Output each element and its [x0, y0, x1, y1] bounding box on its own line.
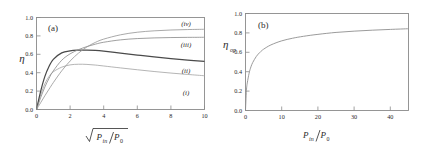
- curve-label-iv: (iv): [181, 20, 191, 28]
- panel-b: 0.0 0.2 0.4 0.6 0.8 1.0 0 10 20 30: [215, 0, 440, 153]
- panel-a: 0.0 0.2 0.4 0.6 0.8 1.0 0 2 4 6: [0, 0, 220, 153]
- panel-a-x-tick-labels: 0 2 4 6 8 10: [35, 112, 208, 119]
- panel-b-curves: [246, 29, 409, 111]
- panel-a-ytick-5: 1.0: [25, 14, 33, 21]
- panel-b-xtick-4: 40: [387, 113, 393, 120]
- panel-b-tag: (b): [258, 20, 269, 30]
- panel-a-xtick-3: 6: [136, 112, 139, 119]
- panel-b-xtick-2b: 20: [315, 113, 321, 120]
- panel-b-xtick-0: 0: [244, 113, 247, 120]
- panel-a-xtick-0: 0: [35, 112, 38, 119]
- panel-a-y-axis-title: η: [19, 52, 24, 64]
- panel-b-ylabel-sub: op: [230, 47, 236, 53]
- panel-a-curves: [37, 29, 205, 109]
- curve-iv: [37, 29, 205, 109]
- panel-b-xlabel-denominator: P: [320, 130, 327, 140]
- panel-a-ytick-2: 0.4: [25, 69, 33, 76]
- curve-label-i: (i): [183, 89, 190, 97]
- panel-b-svg: 0.0 0.2 0.4 0.6 0.8 1.0 0 10 20 30: [215, 0, 440, 153]
- panel-a-xtick-5: 10: [201, 112, 207, 119]
- panel-a-x-axis-title: P in P 0: [86, 129, 128, 144]
- panel-b-ytick-2: 0.4: [234, 68, 242, 75]
- panel-a-xlabel-denominator-sub: 0: [120, 138, 123, 144]
- panel-a-ytick-0: 0.0: [25, 106, 33, 113]
- panel-b-x-ticks: [246, 107, 391, 111]
- panel-b-y-axis-title: η op: [223, 38, 236, 53]
- panel-a-xtick-2: 4: [102, 112, 105, 119]
- panel-b-ytick-5: 1.0: [234, 10, 242, 17]
- panel-a-svg: 0.0 0.2 0.4 0.6 0.8 1.0 0 2 4 6: [0, 0, 220, 153]
- figure-container: 0.0 0.2 0.4 0.6 0.8 1.0 0 2 4 6: [0, 0, 440, 153]
- panel-a-tag: (a): [48, 23, 58, 33]
- panel-b-xtick-1: 10: [279, 113, 285, 120]
- panel-b-xlabel-numerator: P: [302, 130, 309, 140]
- panel-b-xlabel-numerator-sub: in: [309, 136, 314, 142]
- panel-b-x-tick-labels: 0 10 20 30 40: [244, 113, 393, 120]
- curve-label-ii: (ii): [182, 67, 191, 75]
- panel-a-ytick-1: 0.2: [25, 87, 33, 94]
- panel-a-xlabel-denominator: P: [113, 132, 120, 142]
- panel-b-y-tick-labels: 0.0 0.2 0.4 0.6 0.8 1.0: [234, 10, 242, 114]
- panel-b-xtick-3: 30: [351, 113, 357, 120]
- panel-a-x-ticks: [37, 106, 205, 110]
- panel-a-xtick-4: 8: [169, 112, 172, 119]
- panel-b-ytick-0: 0.0: [234, 107, 242, 114]
- panel-b-x-axis-title: P in P 0: [302, 130, 330, 142]
- panel-a-ytick-3: 0.6: [25, 50, 33, 57]
- panel-a-xlabel-numerator-sub: in: [103, 138, 108, 144]
- panel-b-ylabel-base: η: [223, 38, 228, 50]
- curve-label-iii: (iii): [181, 41, 192, 49]
- curve-ii: [37, 50, 205, 109]
- curve-op: [246, 29, 409, 111]
- panel-a-xlabel-numerator: P: [96, 132, 103, 142]
- panel-a-xtick-1: 2: [69, 112, 72, 119]
- panel-b-ytick-1: 0.2: [234, 87, 242, 94]
- panel-b-xlabel-denominator-sub: 0: [327, 136, 330, 142]
- panel-a-plot-frame: [37, 18, 205, 110]
- panel-a-y-tick-labels: 0.0 0.2 0.4 0.6 0.8 1.0: [25, 14, 33, 113]
- panel-b-plot-frame: [246, 14, 409, 111]
- panel-a-ytick-4: 0.8: [25, 32, 33, 39]
- panel-b-ytick-4: 0.8: [234, 29, 242, 36]
